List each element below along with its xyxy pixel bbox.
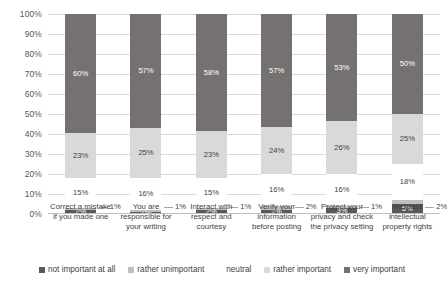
bar-slot: 5%18%25%50%2% <box>375 14 440 214</box>
bar-segment[interactable]: 25% <box>130 128 161 178</box>
bar-segment-label: 15% <box>204 189 219 197</box>
bar-segment-label: 25% <box>400 135 415 143</box>
x-axis-category-label: Correct a mistakeif you made one <box>48 202 113 233</box>
bar-stack[interactable]: 5%18%25%50%2% <box>392 14 423 214</box>
bar-stack[interactable]: 2%15%23%60%1% <box>65 14 96 214</box>
bar-stack[interactable]: 2%15%23%58%1% <box>196 14 227 214</box>
x-axis-category-line: courtesy <box>180 222 243 232</box>
legend-swatch-icon <box>217 267 223 273</box>
x-axis-category-line: your writing <box>114 222 177 232</box>
bar-segment-label: 24% <box>269 147 284 155</box>
legend-label: rather important <box>273 266 331 274</box>
legend-item[interactable]: not important at all <box>39 266 115 274</box>
x-axis-category-line: You are <box>114 202 177 212</box>
bar-slot: 2%16%24%57%2% <box>244 14 309 214</box>
bar-segment[interactable]: 53% <box>326 14 357 121</box>
chart-legend: not important at allrather unimportantne… <box>0 266 444 274</box>
x-axis-category-line: property rights <box>376 222 439 232</box>
y-axis-tick-label: 0% <box>30 209 43 219</box>
bar-segment-label: 58% <box>204 69 219 77</box>
bar-segment-label: 16% <box>138 190 153 198</box>
y-axis: 100%90%80%70%60%50%40%30%20%10%0% <box>0 14 48 214</box>
x-axis-category-label: Interact withrespect andcourtesy <box>179 202 244 233</box>
legend-label: not important at all <box>48 266 115 274</box>
x-axis-category-line: Correct a mistake <box>49 202 112 212</box>
bar-segment-label: 53% <box>334 64 349 72</box>
bar-stack[interactable]: 2%16%24%57%2% <box>261 14 292 214</box>
legend-item[interactable]: very important <box>344 266 405 274</box>
x-axis-category-line: privacy and check <box>310 212 373 222</box>
bar-segment[interactable]: 26% <box>326 121 357 174</box>
x-axis-category-label: Respectintellectualproperty rights <box>375 202 440 233</box>
bar-segment[interactable]: 18% <box>392 164 423 200</box>
bar-group: 2%15%23%60%1%1%16%25%57%1%2%15%23%58%1%2… <box>48 14 440 214</box>
bar-segment-label: 26% <box>334 144 349 152</box>
bar-segment-label: 60% <box>73 70 88 78</box>
y-axis-tick-label: 100% <box>20 9 42 19</box>
bar-segment-label: 25% <box>138 149 153 157</box>
x-axis-category-line: before posting <box>245 222 308 232</box>
legend-swatch-icon <box>344 267 350 273</box>
bar-segment-label: 23% <box>73 152 88 160</box>
bar-segment-label: 18% <box>400 178 415 186</box>
x-axis-category-label: You areresponsible foryour writing <box>113 202 178 233</box>
bar-stack[interactable]: 3%16%26%53%1% <box>326 14 357 214</box>
bar-segment[interactable]: 50% <box>392 14 423 114</box>
y-axis-tick-label: 90% <box>25 29 42 39</box>
y-axis-tick-label: 60% <box>25 89 42 99</box>
x-axis-category-line: the privacy setting <box>310 222 373 232</box>
bar-segment[interactable]: 23% <box>65 133 96 179</box>
bar-segment-label: 23% <box>204 151 219 159</box>
bar-segment-label: 16% <box>269 186 284 194</box>
y-axis-tick-label: 50% <box>25 109 42 119</box>
bar-segment[interactable]: 57% <box>130 14 161 128</box>
bar-segment[interactable]: 57% <box>261 14 292 127</box>
legend-item[interactable]: neutral <box>217 266 251 274</box>
legend-swatch-icon <box>264 267 270 273</box>
x-axis-category-line: intellectual <box>376 212 439 222</box>
bar-segment-label: 50% <box>400 60 415 68</box>
legend-item[interactable]: rather important <box>264 266 331 274</box>
legend-label: very important <box>353 266 405 274</box>
x-axis-category-line: Interact with <box>180 202 243 212</box>
y-axis-tick-label: 20% <box>25 169 42 179</box>
y-axis-tick-label: 80% <box>25 49 42 59</box>
bar-segment-label: 57% <box>269 67 284 75</box>
legend-swatch-icon <box>39 267 45 273</box>
legend-label: rather unimportant <box>137 266 204 274</box>
x-axis-category-line: responsible for <box>114 212 177 222</box>
x-axis-category-line: if you made one <box>49 212 112 222</box>
legend-item[interactable]: rather unimportant <box>128 266 204 274</box>
bar-segment[interactable]: 23% <box>196 131 227 177</box>
x-axis-category-line: Respect <box>376 202 439 212</box>
bar-segment[interactable]: 24% <box>261 127 292 175</box>
bar-segment-label: 57% <box>138 67 153 75</box>
x-axis-category-label: Protect yourprivacy and checkthe privacy… <box>309 202 374 233</box>
y-axis-tick-label: 40% <box>25 129 42 139</box>
x-axis-category-line: Verify your <box>245 202 308 212</box>
bar-slot: 2%15%23%60%1% <box>48 14 113 214</box>
bar-segment[interactable]: 25% <box>392 114 423 164</box>
x-axis-labels: Correct a mistakeif you made oneYou arer… <box>48 202 440 233</box>
bar-segment[interactable]: 60% <box>65 14 96 133</box>
bar-slot: 2%15%23%58%1% <box>179 14 244 214</box>
y-axis-tick-label: 70% <box>25 69 42 79</box>
bar-segment-label: 15% <box>73 189 88 197</box>
legend-label: neutral <box>226 266 251 274</box>
bar-segment-label: 16% <box>334 186 349 194</box>
x-axis-category-line: respect and <box>180 212 243 222</box>
bar-slot: 1%16%25%57%1% <box>113 14 178 214</box>
bar-slot: 3%16%26%53%1% <box>309 14 374 214</box>
bar-segment[interactable]: 58% <box>196 14 227 131</box>
x-axis-category-label: Verify yourinformationbefore posting <box>244 202 309 233</box>
grid-area: 2%15%23%60%1%1%16%25%57%1%2%15%23%58%1%2… <box>48 14 440 214</box>
x-axis-category-line: Protect your <box>310 202 373 212</box>
y-axis-tick-label: 10% <box>25 189 42 199</box>
x-axis-category-line: information <box>245 212 308 222</box>
y-axis-tick-label: 30% <box>25 149 42 159</box>
bar-stack[interactable]: 1%16%25%57%1% <box>130 14 161 214</box>
plot-area: 100%90%80%70%60%50%40%30%20%10%0% 2%15%2… <box>0 14 444 232</box>
legend-swatch-icon <box>128 267 134 273</box>
